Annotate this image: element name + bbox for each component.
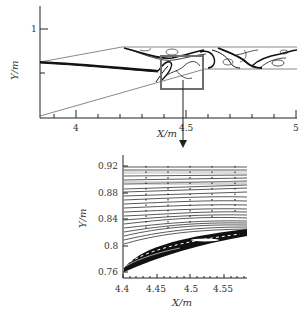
zoom-arrow-head-icon — [179, 140, 187, 148]
top-xtick-label: 5 — [293, 123, 299, 133]
streamline-band — [124, 171, 247, 174]
bottom-ytick-label: 0.8 — [104, 241, 119, 251]
contour-lines — [40, 48, 297, 82]
bottom-ytick-label: 0.92 — [98, 161, 118, 171]
bottom-ytick-label: 0.88 — [98, 188, 118, 198]
bottom-xtick-label: 4.5 — [184, 284, 199, 294]
separation-bubble — [124, 229, 247, 272]
bottom-xtick-label: 4.55 — [213, 284, 233, 294]
zoom-region-box — [161, 56, 203, 89]
top-plot: 1 4 4.5 5 X/m Y/m — [9, 6, 299, 148]
top-xtick-label: 4.5 — [179, 123, 194, 133]
top-ytick-label: 1 — [31, 24, 37, 34]
bottom-ytick-label: 0.84 — [98, 214, 118, 224]
bottom-xtick-label: 4.45 — [146, 284, 166, 294]
figure: 1 4 4.5 5 X/m Y/m — [0, 0, 307, 320]
bottom-ytick-label: 0.76 — [98, 267, 118, 277]
top-x-axis-label: X/m — [156, 128, 177, 139]
geometry-lines — [40, 47, 297, 116]
bottom-xticks — [123, 274, 244, 278]
top-xtick-label: 4 — [73, 123, 79, 133]
bottom-xtick-label: 4.4 — [115, 284, 130, 294]
streamline-band — [124, 181, 247, 185]
bottom-plot: 0.92 0.88 0.84 0.8 0.76 4.4 4.45 4.5 4.5… — [77, 155, 247, 308]
bottom-x-axis-label: X/m — [171, 297, 192, 308]
top-xticks — [54, 110, 296, 118]
top-y-axis-label: Y/m — [9, 61, 20, 80]
bottom-y-axis-label: Y/m — [77, 209, 88, 228]
